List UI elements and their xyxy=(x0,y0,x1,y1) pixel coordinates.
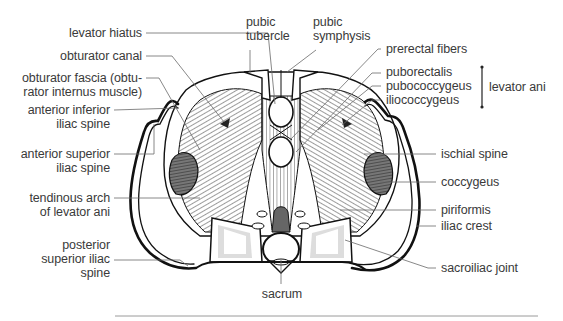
label-pubic-symphysis: pubic symphysis xyxy=(313,15,370,43)
label-text: pubic xyxy=(246,15,290,29)
label-text: levator ani xyxy=(489,80,546,94)
label-text: spine xyxy=(41,266,110,280)
label-obturator-fascia: obturator fascia (obtu- rator internus m… xyxy=(22,71,142,99)
label-text: obturator fascia (obtu- xyxy=(22,71,142,85)
label-text: puborectalis xyxy=(386,65,452,79)
label-iliac-crest: iliac crest xyxy=(441,219,492,233)
label-text: anterior superior xyxy=(21,147,110,161)
label-text: iliac spine xyxy=(28,117,110,131)
label-text: obturator canal xyxy=(60,49,142,63)
label-text: tendinous arch xyxy=(29,191,110,205)
label-anterior-inferior-iliac-spine: anterior inferior iliac spine xyxy=(28,103,110,131)
label-text: iliac spine xyxy=(21,161,110,175)
levator-ani-bracket xyxy=(481,66,483,108)
label-text: coccygeus xyxy=(441,175,499,189)
label-levator-hiatus: levator hiatus xyxy=(69,26,142,40)
label-text: tubercle xyxy=(246,29,290,43)
label-piriformis: piriformis xyxy=(441,203,491,217)
label-text: sacrum xyxy=(262,287,302,301)
label-text: posterior xyxy=(41,238,110,252)
label-sacrum: sacrum xyxy=(257,287,307,301)
label-puborectalis: puborectalis xyxy=(386,65,452,79)
label-text: levator hiatus xyxy=(69,26,142,40)
label-text: ischial spine xyxy=(441,147,508,161)
label-posterior-superior-iliac-spine: posterior superior iliac spine xyxy=(41,238,110,280)
label-obturator-canal: obturator canal xyxy=(60,49,142,63)
label-sacroiliac-joint: sacroiliac joint xyxy=(441,261,518,275)
label-text: pubic xyxy=(313,15,370,29)
label-text: superior iliac xyxy=(41,252,110,266)
label-pubococcygeus: pubococcygeus xyxy=(386,79,472,93)
label-coccygeus: coccygeus xyxy=(441,175,499,189)
label-text: piriformis xyxy=(441,203,491,217)
label-text: prerectal fibers xyxy=(386,42,467,56)
label-text: iliac crest xyxy=(441,219,492,233)
pelvic-floor-diagram: levator hiatus obturator canal obturator… xyxy=(0,0,563,321)
label-text: symphysis xyxy=(313,29,370,43)
label-pubic-tubercle: pubic tubercle xyxy=(246,15,290,43)
label-tendinous-arch: tendinous arch of levator ani xyxy=(29,191,110,219)
label-anterior-superior-iliac-spine: anterior superior iliac spine xyxy=(21,147,110,175)
label-levator-ani-group: levator ani xyxy=(489,80,546,94)
label-ischial-spine: ischial spine xyxy=(441,147,508,161)
label-text: anterior inferior xyxy=(28,103,110,117)
label-text: pubococcygeus xyxy=(386,79,472,93)
label-text: of levator ani xyxy=(29,205,110,219)
label-text: rator internus muscle) xyxy=(22,85,142,99)
label-text: iliococcygeus xyxy=(386,93,459,107)
label-text: sacroiliac joint xyxy=(441,261,518,275)
label-iliococcygeus: iliococcygeus xyxy=(386,93,459,107)
label-prerectal-fibers: prerectal fibers xyxy=(386,42,467,56)
